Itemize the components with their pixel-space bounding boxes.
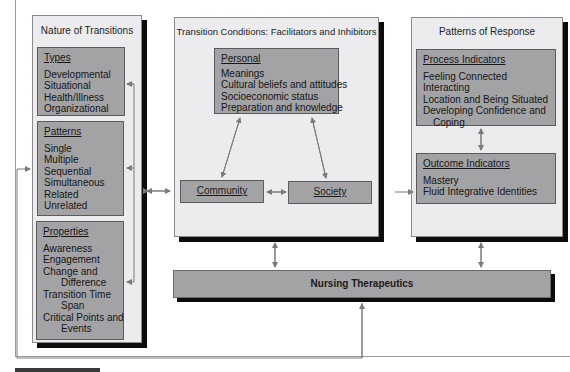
connector-arrows	[0, 0, 570, 372]
feedback-arrow	[17, 169, 362, 358]
properties-arrow	[127, 84, 134, 282]
